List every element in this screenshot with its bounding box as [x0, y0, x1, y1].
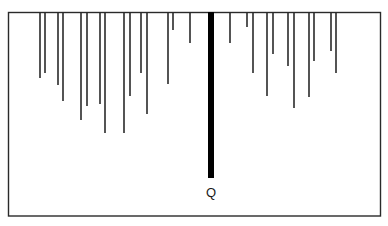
- highlighted-line-q: [208, 12, 214, 178]
- frame: [9, 13, 381, 217]
- diagram-canvas: Q: [0, 0, 388, 226]
- thin-lines-group: [40, 12, 336, 133]
- q-label: Q: [206, 185, 216, 200]
